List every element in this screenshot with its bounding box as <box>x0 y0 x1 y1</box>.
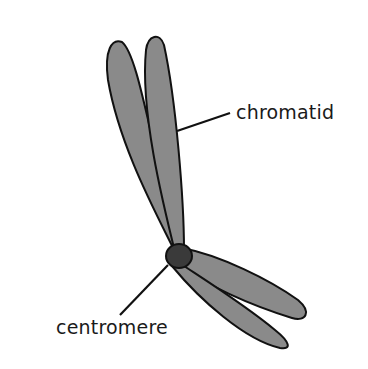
centromere <box>166 244 192 268</box>
chromosome-diagram <box>0 0 368 369</box>
chromatid-leader-line <box>177 113 230 131</box>
centromere-leader-line <box>120 265 168 315</box>
centromere-label: centromere <box>56 316 168 338</box>
chromatid-label: chromatid <box>236 101 334 123</box>
